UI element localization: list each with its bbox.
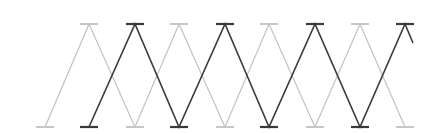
zigzag-diagram [0, 0, 440, 134]
background [0, 0, 440, 134]
